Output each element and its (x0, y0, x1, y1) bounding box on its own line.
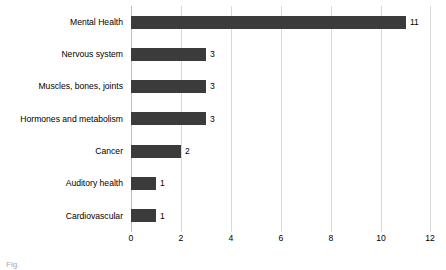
bar-value-label: 3 (210, 115, 215, 124)
x-tick-label: 0 (129, 234, 134, 243)
bar[interactable] (131, 209, 156, 222)
bar-row: 3 (131, 71, 431, 103)
category-label: Muscles, bones, joints (0, 71, 127, 103)
x-axis-tick-labels: 0 2 4 6 8 10 12 (131, 234, 431, 248)
bar-row: 3 (131, 103, 431, 135)
bar[interactable] (131, 16, 406, 29)
bar-row: 2 (131, 135, 431, 167)
category-label: Nervous system (0, 38, 127, 70)
category-label: Auditory health (0, 167, 127, 199)
bar[interactable] (131, 145, 181, 158)
x-tick-label: 8 (329, 234, 334, 243)
category-label: Cardiovascular (0, 200, 127, 232)
bar-value-label: 3 (210, 82, 215, 91)
category-label: Mental Health (0, 6, 127, 38)
bar[interactable] (131, 80, 206, 93)
category-axis-labels: Mental Health Nervous system Muscles, bo… (0, 6, 127, 232)
bar[interactable] (131, 112, 206, 125)
plot-area: 11 3 3 3 2 1 1 (131, 6, 431, 232)
bar-row: 3 (131, 38, 431, 70)
bar-row: 1 (131, 167, 431, 199)
bar-value-label: 3 (210, 50, 215, 59)
figure-caption-partial: Fig. (6, 261, 19, 270)
bar-row: 11 (131, 6, 431, 38)
bar-value-label: 1 (160, 212, 165, 221)
bar-value-label: 1 (160, 179, 165, 188)
bar[interactable] (131, 48, 206, 61)
bar-rows: 11 3 3 3 2 1 1 (131, 6, 431, 232)
bar-chart: Mental Health Nervous system Muscles, bo… (0, 0, 446, 270)
x-tick-label: 12 (425, 234, 435, 243)
x-tick-label: 2 (179, 234, 184, 243)
x-tick-label: 6 (279, 234, 284, 243)
x-tick-label: 4 (229, 234, 234, 243)
bar-value-label: 2 (185, 147, 190, 156)
x-tick-label: 10 (376, 234, 386, 243)
category-label: Cancer (0, 135, 127, 167)
bar-value-label: 11 (410, 18, 419, 27)
bar[interactable] (131, 177, 156, 190)
category-label: Hormones and metabolism (0, 103, 127, 135)
bar-row: 1 (131, 200, 431, 232)
